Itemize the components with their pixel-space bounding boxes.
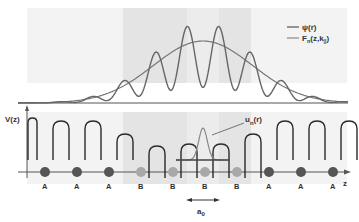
region-shading bbox=[27, 8, 347, 184]
atom-site-A bbox=[40, 167, 50, 177]
site-label: A bbox=[266, 182, 272, 191]
region-A-right bbox=[251, 8, 347, 83]
atom-site-B bbox=[200, 167, 210, 177]
atom-site-B bbox=[168, 167, 178, 177]
site-label: A bbox=[298, 182, 304, 191]
site-label: B bbox=[138, 182, 144, 191]
site-label: A bbox=[42, 182, 48, 191]
lattice-constant-label: a0 bbox=[197, 207, 205, 217]
superlattice-envelope-diagram: ψ(r) Fn(z,k||) V(z) z un(r) AAABBBBAAA a… bbox=[0, 0, 359, 222]
atom-site-A bbox=[328, 167, 338, 177]
arrow-left-icon bbox=[186, 198, 192, 202]
site-label: B bbox=[170, 182, 176, 191]
atom-site-A bbox=[264, 167, 274, 177]
atom-site-B bbox=[232, 167, 242, 177]
atom-site-A bbox=[296, 167, 306, 177]
region-B-inner bbox=[187, 8, 219, 83]
site-label: B bbox=[202, 182, 208, 191]
site-label: A bbox=[106, 182, 112, 191]
arrow-right-icon bbox=[214, 198, 220, 202]
atom-site-B bbox=[136, 167, 146, 177]
y-axis-label: V(z) bbox=[5, 115, 20, 124]
site-label: B bbox=[234, 182, 240, 191]
x-axis-arrow-icon bbox=[344, 170, 351, 175]
y-axis-arrow-icon bbox=[25, 105, 29, 111]
site-label: A bbox=[74, 182, 80, 191]
site-label: A bbox=[330, 182, 336, 191]
legend-psi-label: ψ(r) bbox=[302, 23, 317, 32]
lattice-constant-indicator: a0 bbox=[186, 198, 220, 217]
atom-site-A bbox=[104, 167, 114, 177]
atom-site-A bbox=[72, 167, 82, 177]
region-A-left bbox=[27, 8, 123, 83]
x-axis-label: z bbox=[343, 179, 347, 188]
